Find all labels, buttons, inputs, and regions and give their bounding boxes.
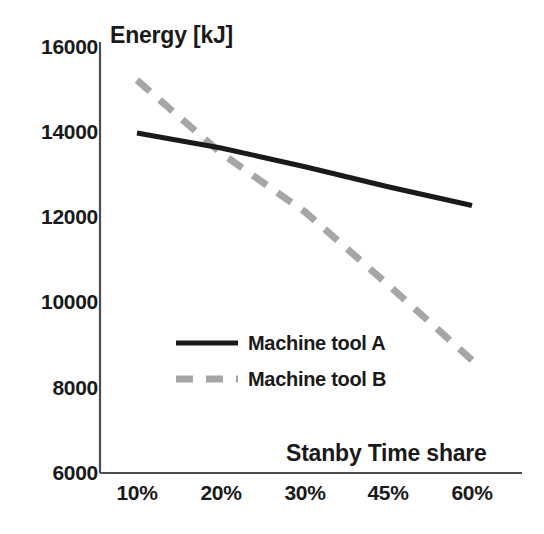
legend-swatch-solid-icon <box>175 336 239 350</box>
legend-label: Machine tool B <box>248 368 386 391</box>
legend-item-machine-tool-b: Machine tool B <box>175 361 386 397</box>
legend-swatch-dashed-icon <box>175 372 239 386</box>
series-line-machine-tool-a <box>137 133 472 205</box>
chart-container: 16000 14000 12000 10000 8000 6000 10% 20… <box>0 0 544 534</box>
chart-legend: Machine tool A Machine tool B <box>175 325 386 397</box>
plot-area <box>0 0 544 534</box>
series-line-machine-tool-b <box>137 80 472 360</box>
legend-item-machine-tool-a: Machine tool A <box>175 325 386 361</box>
legend-label: Machine tool A <box>248 332 385 355</box>
